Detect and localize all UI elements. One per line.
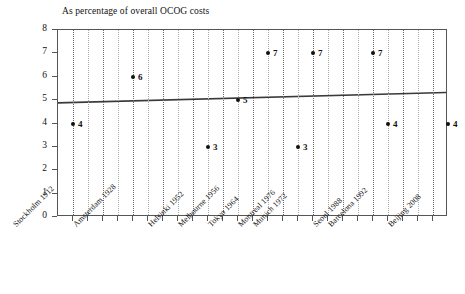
y-tick-label: 3 [42, 141, 47, 151]
data-point-label: 6 [138, 72, 143, 81]
gridline [208, 30, 209, 215]
data-point [71, 122, 75, 126]
data-point-label: 7 [318, 49, 323, 58]
y-tick-label: 5 [42, 94, 47, 104]
data-point [206, 145, 210, 149]
data-point-label: 7 [378, 49, 383, 58]
gridline [283, 30, 284, 215]
data-point [296, 145, 300, 149]
data-point-label: 4 [393, 119, 398, 128]
gridline [103, 30, 104, 215]
gridline [313, 30, 314, 215]
gridline [148, 30, 149, 215]
data-point [266, 51, 270, 55]
gridline [433, 30, 434, 215]
data-point [236, 98, 240, 102]
data-point [386, 122, 390, 126]
data-point [371, 51, 375, 55]
y-tick-label: 6 [42, 71, 47, 81]
gridline [328, 30, 329, 215]
data-point-label: 7 [273, 49, 278, 58]
data-point-label: 4 [78, 119, 83, 128]
gridline [298, 30, 299, 215]
gridline [268, 30, 269, 215]
gridline [163, 30, 164, 215]
data-point [311, 51, 315, 55]
gridline [88, 30, 89, 215]
chart-title: As percentage of overall OCOG costs [62, 6, 209, 16]
gridline [343, 30, 344, 215]
x-axis-labels: Stockholm 1912Amsterdam 1928Helsinki 195… [0, 216, 465, 294]
gridline [238, 30, 239, 215]
y-tick-label: 7 [42, 48, 47, 58]
gridline [193, 30, 194, 215]
gridline [373, 30, 374, 215]
chart-container: As percentage of overall OCOG costs 8765… [0, 0, 465, 294]
gridline [418, 30, 419, 215]
gridline [403, 30, 404, 215]
gridline [178, 30, 179, 215]
gridline [118, 30, 119, 215]
gridline [358, 30, 359, 215]
gridline [223, 30, 224, 215]
data-point-label: 4 [453, 119, 458, 128]
y-tick-label: 4 [42, 118, 47, 128]
y-tick-label: 8 [42, 24, 47, 34]
y-tick-label: 2 [42, 165, 47, 175]
data-point-label: 3 [303, 142, 308, 151]
data-point [131, 75, 135, 79]
data-point [446, 122, 450, 126]
data-point-label: 3 [213, 142, 218, 151]
gridline [253, 30, 254, 215]
gridline [133, 30, 134, 215]
data-point-label: 5 [243, 96, 248, 105]
